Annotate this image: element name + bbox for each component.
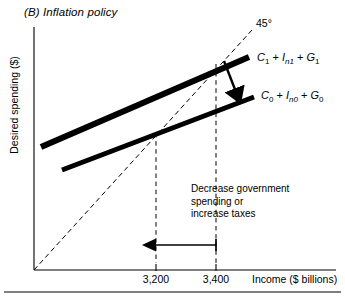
tick-label-3400: 3,400 [203, 273, 229, 285]
forty-five-degree-label: 45° [256, 17, 272, 29]
curve1-g-subscript: 1 [315, 57, 320, 66]
curve-c1-in1-g1 [41, 57, 249, 147]
policy-annotation-line-1: Decrease government [191, 183, 290, 194]
curve-c0-in0-g0 [62, 97, 254, 170]
policy-annotation: Decrease government spending or increase… [191, 183, 292, 219]
x-axis-label: Income ($ billions) [252, 273, 337, 285]
forty-five-degree-line [34, 30, 252, 270]
curve-label-c1-in1-g1: C1 + In1 + G1 [257, 51, 320, 66]
policy-annotation-line-2: spending or [191, 196, 244, 207]
y-axis-label: Desired spending ($) [8, 56, 20, 153]
curve0-c-symbol: C [261, 89, 269, 101]
figure-panel-b: (B) Inflation policy 45° C1 + In1 + G1 C… [0, 0, 345, 298]
curve-label-c0-in0-g0: C0 + In0 + G0 [261, 89, 324, 104]
inflation-policy-chart: 45° C1 + In1 + G1 C0 + In0 + G0 Decrease… [0, 0, 345, 298]
curve0-g-subscript: 0 [319, 95, 324, 104]
tick-label-3200: 3,200 [143, 273, 169, 285]
curve1-i-subscript: n1 [285, 57, 294, 66]
curve1-c-symbol: C [257, 51, 265, 63]
policy-annotation-line-3: increase taxes [191, 208, 255, 219]
